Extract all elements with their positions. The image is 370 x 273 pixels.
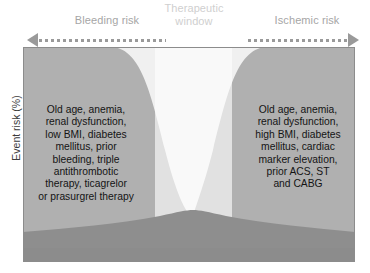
ischemic-risk-factors: Old age, anemia, renal dysfunction, high…: [237, 104, 359, 191]
risk-figure: Event risk (%) Bleeding risk Therapeutic…: [0, 0, 370, 273]
bleeding-risk-factors: Old age, anemia, renal dysfunction, low …: [24, 104, 148, 203]
baseline-strip: [23, 248, 355, 262]
